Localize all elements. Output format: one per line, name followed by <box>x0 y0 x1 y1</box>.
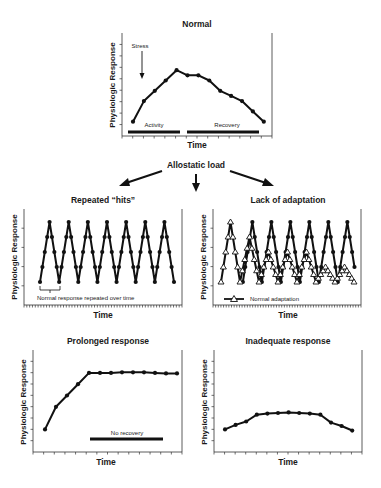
panel-title: Inadequate response <box>245 336 330 346</box>
panel-normal: Normal Physiologic Response Time Stress … <box>108 19 272 150</box>
stress-arrow-icon <box>140 51 145 79</box>
x-axis-label: Time <box>278 310 298 320</box>
x-axis-label: Time <box>278 457 298 467</box>
y-axis-label: Physiologic Response <box>19 359 28 445</box>
y-axis-label: Physiologic Response <box>199 214 208 300</box>
chart-frame <box>33 350 182 452</box>
bracket-icon <box>40 286 60 293</box>
x-axis-label: Time <box>93 310 113 320</box>
axis-ticks <box>212 361 363 454</box>
allostatic-load-figure: Normal Physiologic Response Time Stress … <box>0 0 381 488</box>
chart-frame <box>214 350 362 452</box>
stress-annotation: Stress <box>131 43 148 49</box>
panel-inadequate-response: Inadequate response Physiologic Response… <box>200 336 362 467</box>
allostatic-load-branch: Allostatic load <box>119 160 274 192</box>
legend: Normal adaptation <box>224 296 299 303</box>
panel-title: Repeated “hits” <box>71 195 135 205</box>
panel-title: Prolonged response <box>67 336 149 346</box>
activity-label: Activity <box>144 122 163 128</box>
bracket-annotation: Normal response repeated over time <box>37 295 135 301</box>
y-axis-label: Physiologic Response <box>10 214 19 300</box>
x-axis-label: Time <box>96 457 116 467</box>
data-series <box>223 410 354 432</box>
data-series <box>43 370 179 431</box>
panel-lack-of-adaptation: Lack of adaptation Physiologic Response … <box>199 195 361 320</box>
y-axis-label: Physiologic Response <box>108 42 117 128</box>
recovery-label: Recovery <box>214 122 239 128</box>
arrow-down-icon <box>192 174 200 192</box>
legend-label: Normal adaptation <box>250 296 299 302</box>
panel-prolonged-response: Prolonged response Physiologic Response … <box>19 336 182 467</box>
allostatic-load-label: Allostatic load <box>167 160 225 170</box>
panel-title: Normal <box>182 19 211 29</box>
data-series <box>38 220 176 284</box>
axis-ticks <box>31 361 183 454</box>
x-axis-label: Time <box>187 140 207 150</box>
arrow-right-icon <box>230 171 274 186</box>
panel-title: Lack of adaptation <box>250 195 325 205</box>
y-axis-label: Physiologic Response <box>200 359 209 445</box>
no-recovery-label: No recovery <box>111 430 143 436</box>
panel-repeated-hits: Repeated “hits” Physiologic Response Tim… <box>10 195 182 320</box>
arrow-left-icon <box>119 171 162 186</box>
data-series <box>218 219 357 284</box>
data-series <box>131 68 266 124</box>
